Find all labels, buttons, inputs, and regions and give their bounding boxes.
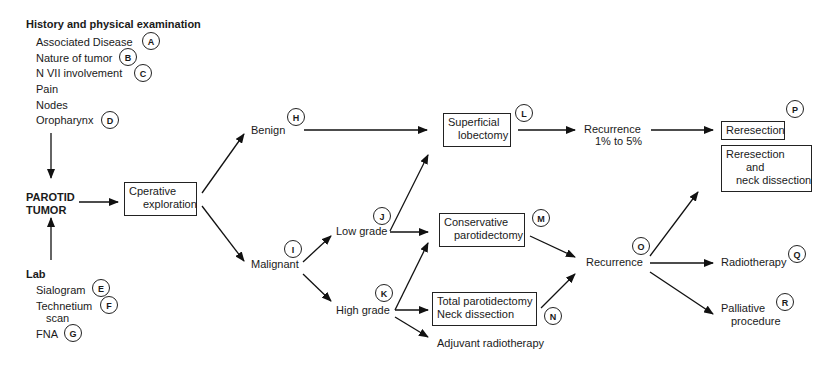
- reresection-box: Reresection: [721, 121, 785, 140]
- marker-g: G: [64, 324, 82, 342]
- marker-l: L: [515, 104, 533, 122]
- operative-exploration-box: Cperative exploration: [124, 182, 197, 216]
- history-item-oropharynx: Oropharynx: [36, 114, 93, 127]
- benign-label: Benign: [251, 124, 285, 137]
- reresection-neck-line2: and: [726, 161, 807, 174]
- lab-item-sialogram: Sialogram: [36, 284, 86, 297]
- recurrence-low-rate: 1% to 5%: [595, 135, 642, 148]
- radiotherapy-label: Radiotherapy: [721, 256, 786, 269]
- low-grade-label: Low grade: [336, 225, 387, 238]
- reresection-neck-line1: Reresection: [726, 148, 807, 161]
- marker-k: K: [375, 284, 393, 302]
- lab-item-fna: FNA: [36, 328, 58, 341]
- marker-o: O: [632, 237, 650, 255]
- marker-m: M: [532, 209, 550, 227]
- conservative-parotidectomy-box: Conservative parotidectomy: [439, 213, 525, 247]
- lab-item-technetium-scan: scan: [46, 312, 69, 325]
- total-parotidectomy-box: Total parotidectomy Neck dissection: [432, 292, 537, 326]
- superficial-lobectomy-box: Superficial lobectomy: [443, 113, 511, 147]
- history-item-nodes: Nodes: [36, 99, 68, 112]
- marker-i: I: [284, 240, 302, 258]
- history-item-associated-disease: Associated Disease: [36, 36, 133, 49]
- marker-e: E: [92, 279, 110, 297]
- operative-line2: exploration: [129, 198, 192, 211]
- recurrence-label: Recurrence: [586, 256, 643, 269]
- history-title: History and physical examination: [26, 18, 201, 31]
- marker-b: B: [119, 48, 137, 66]
- superficial-line1: Superficial: [448, 116, 506, 129]
- conservative-line1: Conservative: [444, 216, 520, 229]
- conservative-line2: parotidectomy: [444, 229, 520, 242]
- total-line1: Total parotidectomy: [437, 295, 532, 308]
- palliative-label: Palliative: [721, 302, 765, 315]
- reresection-neck-dissection-box: Reresection and neck dissection: [721, 145, 812, 192]
- reresection-label: Reresection: [726, 124, 780, 137]
- marker-d: D: [101, 111, 119, 129]
- malignant-label: Malignant: [251, 258, 299, 271]
- marker-h: H: [287, 108, 305, 126]
- history-item-n7-involvement: N VII involvement: [36, 67, 122, 80]
- marker-r: R: [776, 293, 794, 311]
- total-line2: Neck dissection: [437, 308, 532, 321]
- lab-title: Lab: [26, 268, 46, 281]
- history-item-nature-of-tumor: Nature of tumor: [36, 52, 112, 65]
- parotid-label: PAROTID: [26, 191, 75, 204]
- reresection-neck-line3: neck dissection: [726, 174, 807, 187]
- palliative-label-2: procedure: [731, 315, 781, 328]
- history-item-pain: Pain: [36, 83, 58, 96]
- superficial-line2: lobectomy: [448, 129, 506, 142]
- marker-n: N: [544, 307, 562, 325]
- high-grade-label: High grade: [336, 304, 390, 317]
- marker-j: J: [373, 207, 391, 225]
- marker-p: P: [786, 100, 804, 118]
- marker-q: Q: [788, 245, 806, 263]
- tumor-label: TUMOR: [26, 204, 66, 217]
- adjuvant-radiotherapy-label: Adjuvant radiotherapy: [437, 337, 544, 350]
- marker-a: A: [142, 32, 160, 50]
- marker-c: C: [134, 64, 152, 82]
- operative-line1: Cperative: [129, 185, 192, 198]
- marker-f: F: [100, 296, 118, 314]
